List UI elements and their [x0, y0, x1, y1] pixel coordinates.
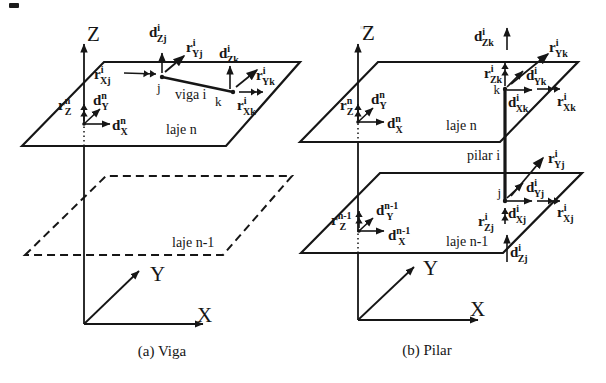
figure: Z X Y laje n laje n-1 rnZ dnY dnX j k vi… — [0, 0, 606, 383]
node-k-dot — [503, 87, 507, 91]
y-axis-label: Y — [423, 256, 438, 280]
node-k-label: k — [215, 94, 222, 109]
slab-laje-n-label: laje n — [446, 118, 477, 133]
caption-b: (b) Pilar — [402, 342, 452, 359]
slab-laje-n1-label: laje n-1 — [446, 234, 488, 249]
figure-canvas: Z X Y laje n laje n-1 rnZ dnY dnX j k vi… — [0, 0, 606, 383]
slab-laje-n-label: laje n — [166, 122, 197, 137]
column-member-label: pilar i — [467, 148, 500, 163]
node-j-label: j — [496, 185, 501, 200]
node-k-dot — [231, 90, 235, 94]
node-j-dot — [160, 75, 164, 79]
scan-artifact — [9, 3, 19, 8]
node-j-dot — [503, 199, 507, 203]
y-axis-label: Y — [150, 262, 165, 286]
beam-member-label: viga i — [175, 87, 207, 102]
z-axis-label: Z — [362, 21, 375, 45]
x-axis-label: X — [470, 297, 485, 321]
caption-a: (a) Viga — [138, 343, 187, 360]
rXj-arrow — [124, 73, 156, 74]
node-j-label: j — [156, 80, 161, 95]
x-axis-label: X — [197, 303, 212, 327]
z-axis-label: Z — [87, 22, 100, 46]
slab-laje-n1-label: laje n-1 — [172, 235, 214, 250]
